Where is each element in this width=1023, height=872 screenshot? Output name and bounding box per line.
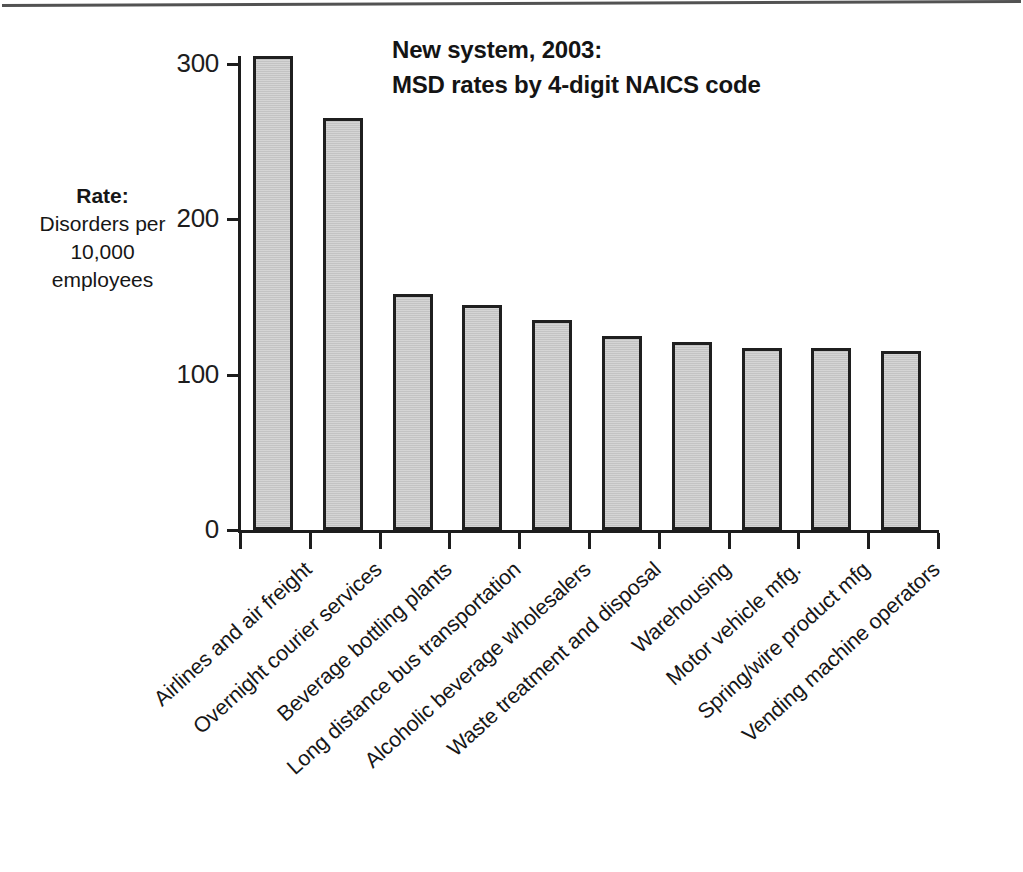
x-tick	[867, 533, 870, 549]
bar[interactable]	[881, 351, 921, 530]
x-tick	[239, 533, 242, 549]
chart-title-line-1: New system, 2003:	[392, 32, 761, 67]
y-tick-0	[227, 529, 240, 532]
y-tick-label-100: 100	[145, 361, 219, 387]
y-tick-100	[227, 374, 240, 377]
y-tick-label-0: 0	[145, 516, 219, 542]
x-tick	[797, 533, 800, 549]
y-axis-title-line-2: Disorders per	[0, 210, 205, 238]
x-tick	[518, 533, 521, 549]
bar[interactable]	[602, 336, 642, 530]
bar[interactable]	[672, 342, 712, 530]
chart-title-line-2: MSD rates by 4-digit NAICS code	[392, 67, 761, 102]
x-tick	[379, 533, 382, 549]
bar-chart-plot: 0100200300 New system, 2003: MSD rates b…	[0, 0, 1023, 872]
x-tick	[588, 533, 591, 549]
x-tick	[309, 533, 312, 549]
y-axis-title: Rate: Disorders per 10,000 employees	[0, 182, 205, 294]
x-tick	[448, 533, 451, 549]
y-tick-label-text: 100	[149, 361, 219, 387]
bar[interactable]	[532, 320, 572, 530]
y-tick-label-text: 300	[149, 50, 219, 76]
bar[interactable]	[742, 348, 782, 530]
bar[interactable]	[462, 305, 502, 530]
y-axis-title-line-4: employees	[0, 266, 205, 294]
x-axis-category-labels: Airlines and air freightOvernight courie…	[0, 0, 1023, 872]
x-tick	[937, 533, 940, 549]
bar[interactable]	[323, 118, 363, 530]
bar[interactable]	[253, 56, 293, 530]
x-tick	[728, 533, 731, 549]
bar[interactable]	[393, 294, 433, 530]
bar[interactable]	[811, 348, 851, 530]
chart-title: New system, 2003: MSD rates by 4-digit N…	[392, 32, 761, 102]
x-tick	[658, 533, 661, 549]
y-tick-200	[227, 218, 240, 221]
y-tick-label-300: 300	[145, 50, 219, 76]
y-axis-title-line-3: 10,000	[0, 238, 205, 266]
y-axis-title-line-1: Rate:	[0, 182, 205, 210]
y-tick-label-text: 0	[149, 516, 219, 542]
y-axis-line	[238, 56, 241, 533]
chart-page: 0100200300 New system, 2003: MSD rates b…	[0, 0, 1023, 872]
y-tick-300	[227, 63, 240, 66]
